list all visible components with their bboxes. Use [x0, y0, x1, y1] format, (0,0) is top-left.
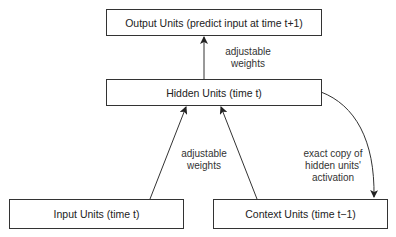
input-units-box: Input Units (time t) — [9, 199, 184, 229]
input-units-label: Input Units (time t) — [54, 208, 140, 220]
elman-network-diagram: Output Units (predict input at time t+1)… — [0, 0, 396, 237]
hidden-units-box: Hidden Units (time t) — [106, 79, 322, 106]
hidden-output-weights-label: adjustable weights — [220, 46, 276, 70]
input-context-weights-label: adjustable weights — [176, 148, 232, 172]
copy-activation-label: exact copy of hidden units' activation — [298, 148, 368, 184]
output-units-label: Output Units (predict input at time t+1) — [125, 17, 303, 29]
output-units-box: Output Units (predict input at time t+1) — [106, 9, 322, 36]
context-units-label: Context Units (time t−1) — [245, 208, 356, 220]
hidden-units-label: Hidden Units (time t) — [166, 87, 262, 99]
context-units-box: Context Units (time t−1) — [213, 199, 388, 229]
